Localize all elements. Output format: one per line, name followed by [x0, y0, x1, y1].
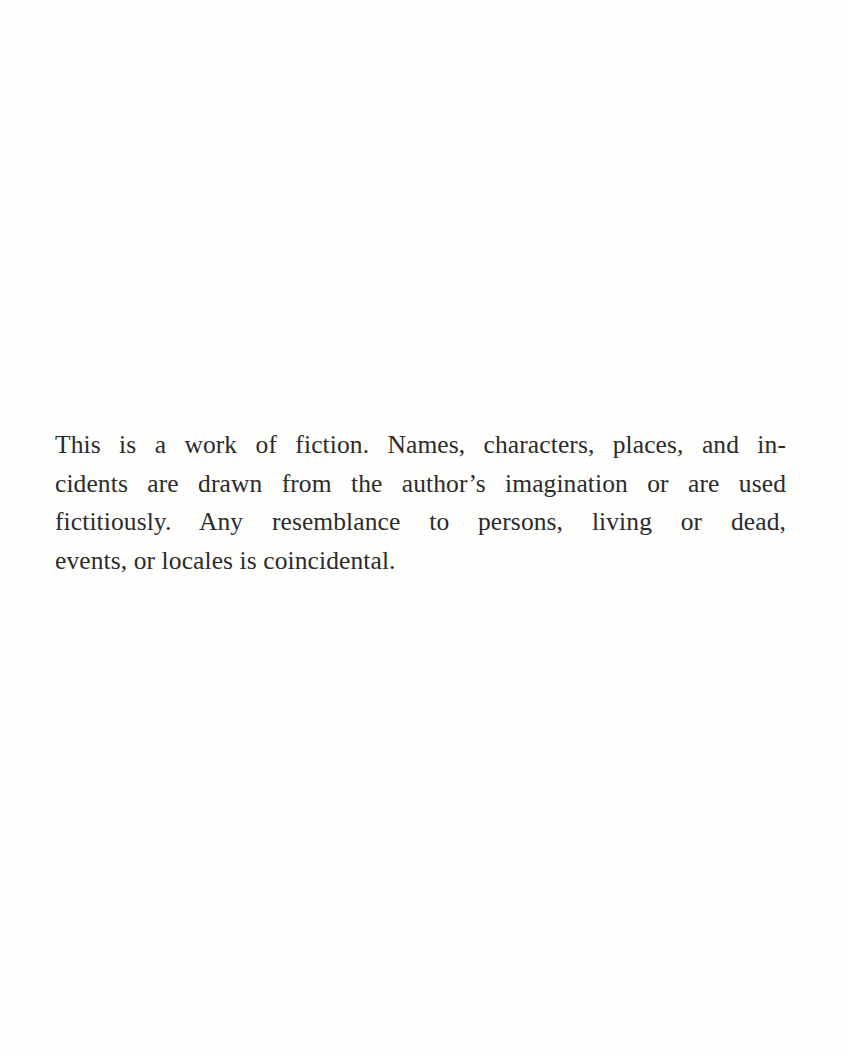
disclaimer-line-4: events, or locales is coincidental.: [55, 542, 786, 581]
book-page: This is a work of fiction. Names, charac…: [0, 0, 847, 1056]
fiction-disclaimer: This is a work of fiction. Names, charac…: [55, 426, 786, 580]
disclaimer-line-2: cidents are drawn from the author’s imag…: [55, 465, 786, 504]
disclaimer-line-3: fictitiously. Any resemblance to persons…: [55, 503, 786, 542]
disclaimer-line-1: This is a work of fiction. Names, charac…: [55, 426, 786, 465]
